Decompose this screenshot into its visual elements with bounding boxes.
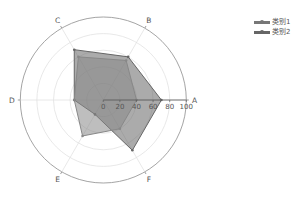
tick-label: 0: [101, 103, 105, 111]
category-tick: [145, 26, 146, 28]
data-point-marker: [73, 99, 76, 102]
data-point-marker: [73, 48, 76, 51]
data-point-marker: [119, 127, 122, 130]
data-point-marker: [81, 135, 84, 138]
category-label: C: [55, 16, 60, 25]
tick-label: 60: [149, 103, 158, 111]
legend-item-series-2: 类别2: [254, 27, 290, 37]
category-label: D: [9, 96, 15, 105]
category-label: B: [146, 16, 151, 25]
category-label: F: [147, 175, 151, 184]
category-tick: [145, 172, 146, 174]
legend-line-marker-icon: [254, 21, 270, 24]
legend: 类别1 类别2: [254, 17, 290, 37]
legend-item-series-1: 类别1: [254, 17, 290, 27]
category-label: E: [55, 175, 60, 184]
data-point-marker: [127, 56, 130, 59]
data-point-marker: [77, 56, 80, 59]
legend-label: 类别1: [272, 17, 290, 27]
legend-label: 类别2: [272, 27, 290, 37]
category-tick: [61, 26, 62, 28]
data-point-marker: [131, 149, 134, 152]
tick-label: 80: [165, 103, 174, 111]
category-tick: [61, 172, 62, 174]
data-point-marker: [125, 59, 128, 62]
tick-label: 40: [132, 103, 141, 111]
tick-label: 100: [180, 103, 193, 111]
legend-line-marker-icon: [254, 31, 270, 34]
tick-label: 20: [115, 103, 124, 111]
